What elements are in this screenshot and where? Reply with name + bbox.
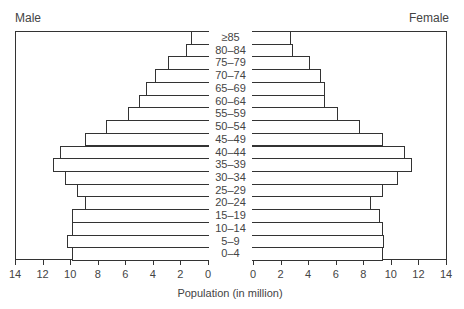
x-tick (15, 260, 16, 265)
male-bar (186, 44, 209, 58)
age-group-label: 70–74 (209, 69, 252, 82)
female-title: Female (409, 11, 449, 25)
x-tick (418, 260, 419, 265)
x-tick (391, 260, 392, 265)
age-group-label: 35–39 (209, 158, 252, 171)
x-tick-label: 4 (296, 268, 320, 280)
male-panel (15, 31, 209, 260)
female-bar (252, 171, 398, 185)
x-tick-label: 6 (113, 268, 137, 280)
female-bar (252, 82, 325, 96)
age-group-label: 45–49 (209, 133, 252, 146)
age-group-label: 80–84 (209, 44, 252, 57)
x-tick-label: 12 (406, 268, 430, 280)
x-tick-label: 6 (324, 268, 348, 280)
age-group-label: 25–29 (209, 184, 252, 197)
male-bar (72, 209, 209, 223)
female-bar (252, 69, 321, 83)
female-bar (252, 196, 371, 210)
age-group-label: 10–14 (209, 222, 252, 235)
female-bar (252, 95, 325, 109)
age-group-label: 50–54 (209, 120, 252, 133)
female-bar (252, 222, 383, 236)
x-tick-label: 14 (434, 268, 458, 280)
x-tick-label: 8 (86, 268, 110, 280)
male-bar (85, 196, 209, 210)
age-group-label: 60–64 (209, 95, 252, 108)
female-bar (252, 56, 310, 70)
x-tick (363, 260, 364, 265)
x-tick (253, 260, 254, 265)
x-axis-label: Population (in million) (160, 287, 300, 299)
age-group-label: 15–19 (209, 209, 252, 222)
age-group-label: 75–79 (209, 56, 252, 69)
male-bar (146, 82, 209, 96)
female-bar (252, 235, 384, 249)
female-bar (252, 146, 405, 160)
x-tick (336, 260, 337, 265)
male-bar (67, 235, 209, 249)
age-group-label: 30–34 (209, 171, 252, 184)
male-title: Male (15, 11, 41, 25)
x-tick (446, 260, 447, 265)
x-tick-label: 0 (241, 268, 265, 280)
male-bar (53, 158, 209, 172)
x-tick-label: 8 (351, 268, 375, 280)
male-bar (65, 171, 209, 185)
x-tick-label: 12 (31, 268, 55, 280)
age-group-label: 55–59 (209, 107, 252, 120)
x-tick-label: 10 (379, 268, 403, 280)
male-bar (85, 133, 209, 147)
male-bar (128, 107, 209, 121)
x-tick-label: 2 (269, 268, 293, 280)
x-tick (180, 260, 181, 265)
age-group-label: 65–69 (209, 82, 252, 95)
male-bar (139, 95, 209, 109)
x-tick (125, 260, 126, 265)
x-tick-label: 0 (196, 268, 220, 280)
x-tick (281, 260, 282, 265)
male-bar (72, 247, 209, 261)
x-tick (153, 260, 154, 265)
x-tick-label: 2 (168, 268, 192, 280)
female-bar (252, 120, 360, 134)
x-tick (70, 260, 71, 265)
male-bar (77, 184, 209, 198)
x-tick (308, 260, 309, 265)
male-bar (191, 31, 209, 45)
male-bar (168, 56, 209, 70)
age-group-label: ≥85 (209, 31, 252, 44)
x-tick-label: 10 (58, 268, 82, 280)
female-bar (252, 107, 338, 121)
female-bar (252, 31, 291, 45)
age-group-label: 0–4 (209, 247, 252, 260)
age-group-label: 20–24 (209, 196, 252, 209)
x-tick-label: 14 (3, 268, 27, 280)
male-bar (60, 146, 209, 160)
male-bar (106, 120, 210, 134)
female-bar (252, 133, 383, 147)
female-bar (252, 158, 412, 172)
x-tick (208, 260, 209, 265)
x-tick-label: 4 (141, 268, 165, 280)
female-bar (252, 247, 383, 261)
age-group-label: 40–44 (209, 146, 252, 159)
female-bar (252, 44, 293, 58)
male-bar (155, 69, 209, 83)
female-bar (252, 184, 383, 198)
female-panel (252, 31, 447, 260)
male-bar (72, 222, 209, 236)
female-bar (252, 209, 380, 223)
x-tick (43, 260, 44, 265)
x-tick (98, 260, 99, 265)
age-group-label: 5–9 (209, 235, 252, 248)
